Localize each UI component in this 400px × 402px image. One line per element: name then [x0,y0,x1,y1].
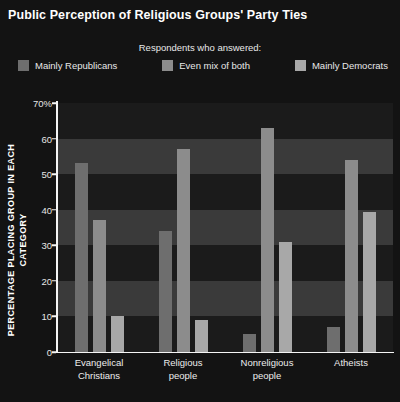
y-tick-mark [52,245,56,247]
legend-item-even-mix-of-both[interactable]: Even mix of both [162,60,250,71]
bar[interactable] [345,160,358,352]
bar[interactable] [177,149,190,352]
bar-group [57,103,141,352]
chart-legend: Mainly Republicans Even mix of both Main… [18,60,388,71]
x-tick-label: Atheists [309,356,393,382]
y-tick-mark [52,173,56,175]
bar[interactable] [75,163,88,352]
y-tick-label: 70% [12,98,52,109]
legend-item-mainly-republicans[interactable]: Mainly Republicans [18,60,117,71]
bar[interactable] [243,334,256,352]
y-axis-label: PERCENTAGE PLACING GROUP IN EACH CATEGOR… [5,140,29,340]
legend-swatch-icon [18,60,29,71]
bar[interactable] [195,320,208,352]
y-tick-mark [52,280,56,282]
x-tick-label-line: Nonreligious [225,356,309,369]
bar[interactable] [363,212,376,353]
y-tick-mark [52,351,56,353]
bar-group [141,103,225,352]
bar[interactable] [93,220,106,352]
bar-group [225,103,309,352]
chart-title: Public Perception of Religious Groups' P… [8,8,307,22]
bars-layer [57,103,393,352]
x-tick-label: Religiouspeople [141,356,225,382]
x-tick-label: Nonreligiouspeople [225,356,309,382]
bar-group [309,103,393,352]
legend-swatch-icon [162,60,173,71]
y-tick-mark [52,102,56,104]
y-axis-line [56,101,58,353]
legend-caption: Respondents who answered: [0,42,400,53]
y-tick-mark [52,316,56,318]
bar[interactable] [327,327,340,352]
legend-swatch-icon [295,60,306,71]
y-axis-label-line1: PERCENTAGE PLACING GROUP [6,186,16,336]
bar[interactable] [261,128,274,352]
x-tick-label-line: Religious [141,356,225,369]
x-tick-label-line: Atheists [309,356,393,369]
legend-label: Mainly Democrats [312,60,388,71]
y-tick-mark [52,138,56,140]
x-tick-label: EvangelicalChristians [57,356,141,382]
x-tick-label-line: people [225,369,309,382]
legend-label: Mainly Republicans [35,60,117,71]
bar[interactable] [111,316,124,352]
bar[interactable] [159,231,172,352]
bar[interactable] [279,242,292,352]
x-tick-label-line: people [141,369,225,382]
y-tick-label: 0 [12,347,52,358]
legend-item-mainly-democrats[interactable]: Mainly Democrats [295,60,388,71]
y-tick-mark [52,209,56,211]
x-tick-label-line: Evangelical [57,356,141,369]
x-axis-labels: EvangelicalChristiansReligiouspeopleNonr… [57,356,393,382]
plot-area [57,103,393,352]
chart-root: Public Perception of Religious Groups' P… [0,0,400,402]
x-axis-line [56,352,394,354]
legend-label: Even mix of both [179,60,250,71]
x-tick-label-line: Christians [57,369,141,382]
